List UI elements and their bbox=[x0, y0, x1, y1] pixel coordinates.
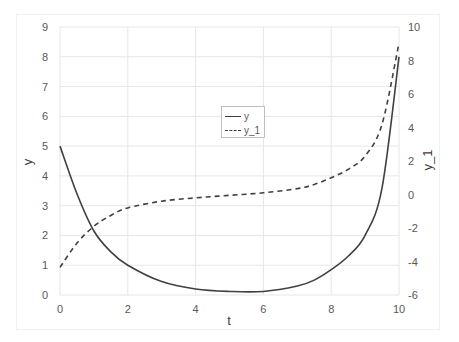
x-axis-label: t bbox=[227, 313, 231, 328]
legend-label: y bbox=[244, 111, 249, 122]
x-tick-label: 6 bbox=[260, 303, 266, 315]
y2-tick-label: -6 bbox=[408, 289, 418, 301]
solid-line-icon bbox=[225, 116, 241, 117]
series-y_1 bbox=[60, 43, 399, 267]
x-tick-label: 0 bbox=[57, 303, 63, 315]
legend-item-y: y bbox=[225, 110, 249, 122]
y-tick-label: 2 bbox=[42, 229, 48, 241]
series-lines bbox=[60, 43, 399, 292]
y2-axis-label: y_1 bbox=[420, 150, 435, 171]
y2-tick-label: 8 bbox=[408, 55, 414, 67]
y-tick-label: 7 bbox=[42, 81, 48, 93]
y2-tick-label: 4 bbox=[408, 122, 414, 134]
dashed-line-icon bbox=[225, 130, 241, 131]
y-axis-label: y bbox=[20, 158, 35, 165]
y-tick-label: 3 bbox=[42, 200, 48, 212]
legend: y y_1 bbox=[221, 106, 265, 138]
legend-item-y_1: y_1 bbox=[225, 124, 260, 136]
y-tick-label: 1 bbox=[42, 259, 48, 271]
y-tick-label: 8 bbox=[42, 51, 48, 63]
y2-tick-label: 0 bbox=[408, 189, 414, 201]
y-tick-label: 0 bbox=[42, 289, 48, 301]
series-y bbox=[60, 57, 399, 292]
y2-tick-label: -4 bbox=[408, 256, 418, 268]
y2-tick-label: 10 bbox=[408, 21, 420, 33]
y-tick-label: 9 bbox=[42, 21, 48, 33]
x-tick-label: 4 bbox=[193, 303, 199, 315]
x-tick-label: 8 bbox=[328, 303, 334, 315]
y-tick-label: 6 bbox=[42, 110, 48, 122]
y-tick-label: 5 bbox=[42, 140, 48, 152]
x-tick-label: 2 bbox=[125, 303, 131, 315]
chart-plot: 01234567890246810-6-4-20246810 t y y_1 bbox=[0, 0, 459, 342]
legend-label: y_1 bbox=[244, 125, 260, 136]
y2-tick-label: 2 bbox=[408, 155, 414, 167]
gridlines bbox=[60, 27, 399, 295]
y2-tick-label: -2 bbox=[408, 222, 418, 234]
y-tick-label: 4 bbox=[42, 170, 48, 182]
tick-labels: 01234567890246810-6-4-20246810 bbox=[42, 21, 420, 315]
y2-tick-label: 6 bbox=[408, 88, 414, 100]
x-tick-label: 10 bbox=[393, 303, 405, 315]
